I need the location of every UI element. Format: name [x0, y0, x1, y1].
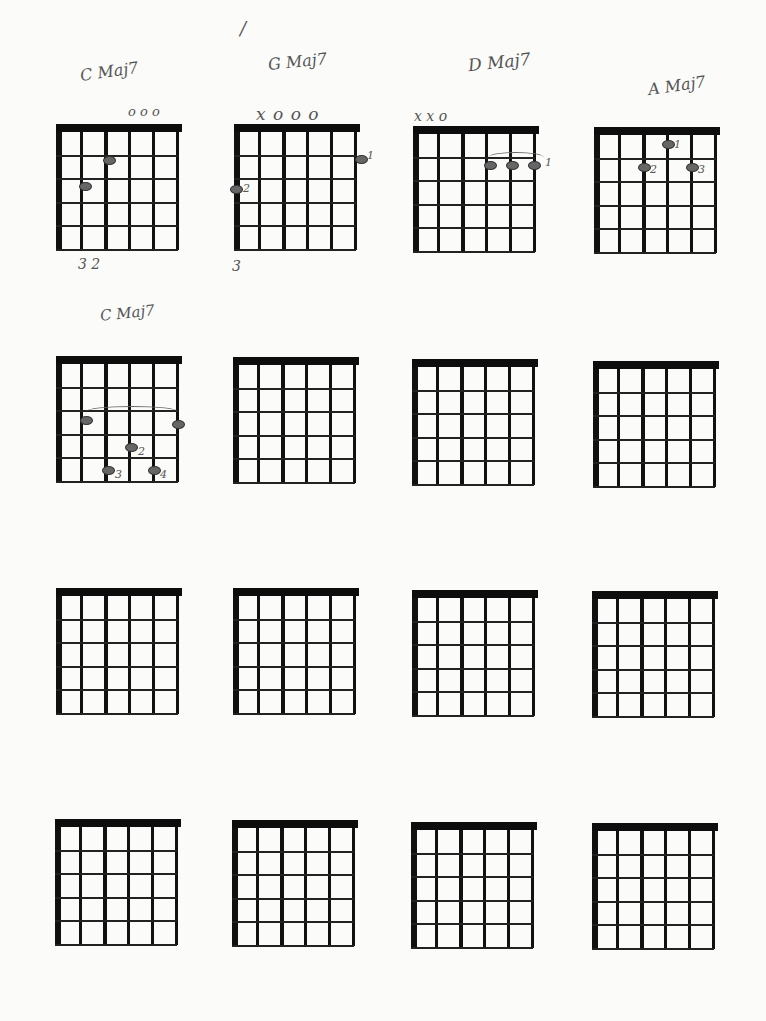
- fretboard-grid: [411, 830, 533, 948]
- string-line: [460, 598, 464, 716]
- fret-line: [55, 944, 177, 946]
- fret-line: [56, 225, 178, 227]
- nut: [594, 127, 720, 135]
- string-line: [460, 367, 464, 485]
- fret-line: [56, 387, 178, 389]
- string-line: [437, 134, 440, 252]
- fret-line: [55, 897, 177, 899]
- fret-line: [55, 850, 177, 852]
- fretboard-grid: [56, 596, 178, 714]
- chord-diagram-10: [233, 588, 359, 716]
- fret-line: [592, 669, 714, 671]
- fret-line: [56, 713, 178, 715]
- fretboard-grid: [232, 828, 354, 946]
- chord-diagram-2: [234, 124, 360, 252]
- fretboard-grid: [412, 367, 534, 485]
- string-line: [411, 830, 417, 948]
- string-line: [257, 365, 260, 483]
- fret-line: [413, 251, 535, 253]
- string-line: [640, 831, 644, 949]
- fret-line: [592, 877, 714, 879]
- string-line: [55, 827, 61, 945]
- open-string-marks-1: o o o: [128, 104, 160, 119]
- chord-diagram-13: [55, 819, 181, 947]
- string-line: [56, 364, 62, 482]
- string-line: [484, 367, 487, 485]
- fret-line: [411, 947, 533, 949]
- fret-line: [232, 874, 354, 876]
- fret-line: [412, 390, 534, 392]
- string-line: [176, 132, 179, 250]
- string-line: [232, 828, 238, 946]
- string-line: [305, 596, 308, 714]
- nut: [234, 124, 360, 132]
- finger-number: 2: [243, 182, 250, 195]
- string-line: [329, 596, 332, 714]
- fret-line: [232, 945, 354, 947]
- string-line: [79, 827, 82, 945]
- chord-diagram-11: [412, 590, 538, 718]
- string-line: [330, 132, 333, 250]
- chord-diagram-12: [592, 591, 718, 719]
- string-line: [281, 596, 285, 714]
- string-line: [104, 132, 108, 250]
- string-line: [689, 369, 692, 487]
- nut: [592, 823, 718, 831]
- string-line: [640, 599, 644, 717]
- chord-diagram-16: [592, 823, 718, 951]
- string-line: [305, 365, 308, 483]
- finger-dot: [172, 420, 185, 429]
- fret-line: [56, 249, 178, 251]
- fret-line: [55, 920, 177, 922]
- chord-diagram-1: [56, 124, 182, 252]
- nut: [233, 588, 359, 596]
- fret-line: [232, 898, 354, 900]
- fret-line: [412, 484, 534, 486]
- string-line: [712, 599, 715, 717]
- string-line: [664, 599, 667, 717]
- fret-line: [412, 437, 534, 439]
- string-line: [616, 599, 619, 717]
- fret-line: [233, 713, 355, 715]
- string-line: [712, 831, 715, 949]
- fretboard-grid: [594, 135, 716, 253]
- fret-line: [412, 715, 534, 717]
- fret-line: [233, 482, 355, 484]
- string-line: [127, 827, 130, 945]
- fret-line: [592, 854, 714, 856]
- string-line: [413, 134, 419, 252]
- string-line: [485, 134, 488, 252]
- fretboard-grid: [412, 598, 534, 716]
- fret-line: [233, 411, 355, 413]
- string-line: [152, 364, 155, 482]
- chord-diagram-5: [56, 356, 182, 484]
- fret-line: [412, 644, 534, 646]
- string-line: [104, 364, 108, 482]
- fret-line: [234, 249, 356, 251]
- fret-line: [56, 619, 178, 621]
- fret-line: [412, 668, 534, 670]
- string-line: [592, 599, 598, 717]
- string-line: [281, 365, 285, 483]
- string-line: [436, 598, 439, 716]
- string-line: [128, 364, 131, 482]
- fret-line: [233, 666, 355, 668]
- fret-line: [56, 642, 178, 644]
- fret-line: [592, 622, 714, 624]
- fret-line: [56, 202, 178, 204]
- string-line: [531, 830, 534, 948]
- fretboard-grid: [592, 599, 714, 717]
- string-line: [642, 135, 646, 253]
- fretboard-grid: [234, 132, 356, 250]
- chord-label-3: D Maj7: [467, 49, 531, 75]
- chord-label-2: G Maj7: [267, 49, 328, 74]
- fret-line: [412, 413, 534, 415]
- fret-line: [594, 205, 716, 207]
- chord-label-5: C Maj7: [99, 301, 155, 325]
- fret-line: [412, 691, 534, 693]
- string-line: [483, 830, 486, 948]
- fret-line: [233, 388, 355, 390]
- string-line: [233, 596, 239, 714]
- string-line: [353, 596, 356, 714]
- fret-line: [594, 252, 716, 254]
